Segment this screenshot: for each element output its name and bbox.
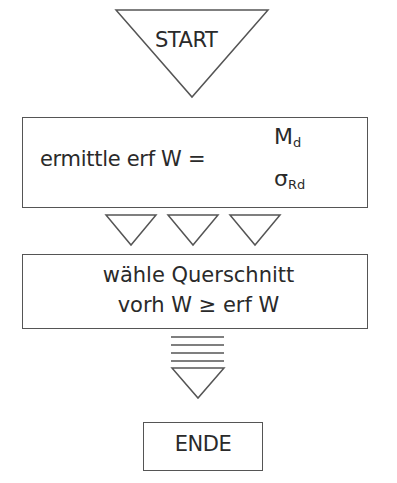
- connector-triangle-1: [106, 215, 156, 245]
- numerator-subscript: d: [293, 135, 301, 150]
- fraction-numerator: Md: [274, 124, 301, 150]
- numerator-symbol: M: [274, 124, 293, 149]
- flowchart-shapes: [0, 0, 397, 483]
- end-label: ENDE: [143, 432, 263, 456]
- step1-text: ermittle erf W =: [40, 147, 205, 171]
- fraction-denominator: σRd: [274, 166, 305, 192]
- start-triangle: [116, 10, 268, 97]
- connector-triangles: [106, 215, 280, 245]
- stack-lines: [171, 337, 224, 361]
- connector-triangle-2: [168, 215, 218, 245]
- start-label: START: [155, 28, 217, 52]
- step2-line2: vorh W ≥ erf W: [0, 293, 397, 317]
- connector-triangle-3: [230, 215, 280, 245]
- end-connector-triangle: [172, 368, 224, 398]
- denominator-subscript: Rd: [288, 177, 305, 192]
- step2-line1: wähle Querschnitt: [0, 263, 397, 287]
- denominator-symbol: σ: [274, 166, 288, 191]
